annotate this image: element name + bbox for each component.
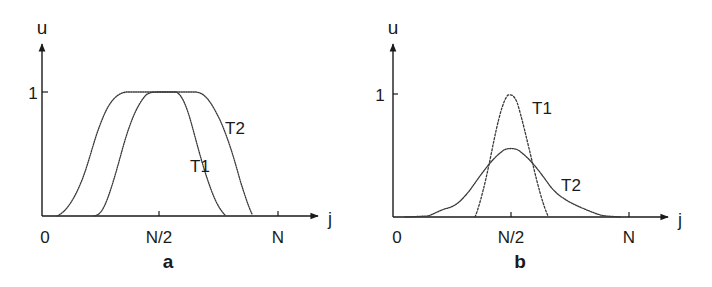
y-axis-label-a: u [37, 17, 48, 38]
curve-t1-a [94, 92, 225, 216]
panel-a: u 1 0 N/2 N j T1 T2 a [28, 17, 332, 272]
panel-b: u 1 0 N/2 N j T1 T2 b [375, 17, 682, 272]
x-tick-label-n-a: N [272, 228, 284, 247]
curve-label-t1-a: T1 [190, 157, 210, 176]
x-axis-label-a: j [327, 209, 332, 229]
x-tick-label-half-b: N/2 [498, 228, 524, 247]
curve-t2-a [57, 92, 252, 216]
x-tick-label-n-b: N [623, 228, 635, 247]
figure: u 1 0 N/2 N j T1 T2 a u 1 0 N/2 N j T1 T… [0, 0, 712, 287]
y-tick-label-1-a: 1 [28, 84, 37, 103]
panel-caption-b: b [514, 251, 526, 272]
y-tick-label-1-b: 1 [375, 86, 384, 105]
x-tick-label-0-a: 0 [40, 228, 49, 247]
x-tick-label-0-b: 0 [392, 228, 401, 247]
curve-label-t2-b: T2 [561, 176, 581, 195]
curve-label-t2-a: T2 [225, 119, 245, 138]
x-tick-label-half-a: N/2 [146, 228, 172, 247]
curve-t2-b [405, 149, 620, 218]
x-axis-label-b: j [677, 210, 682, 230]
panel-caption-a: a [163, 251, 174, 272]
curve-label-t1-b: T1 [532, 99, 552, 118]
y-axis-label-b: u [388, 17, 399, 38]
